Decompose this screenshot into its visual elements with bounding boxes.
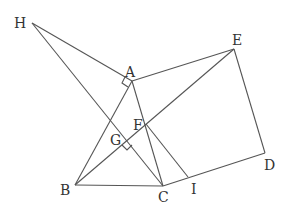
point-label-F: F bbox=[133, 117, 143, 133]
segment-HC bbox=[32, 23, 163, 186]
point-label-B: B bbox=[60, 182, 70, 198]
point-label-I: I bbox=[191, 181, 197, 197]
point-label-E: E bbox=[232, 32, 242, 48]
segment-BC bbox=[75, 185, 163, 186]
point-label-A: A bbox=[124, 64, 136, 80]
geometry-diagram: H A E F G B C I D bbox=[0, 0, 291, 214]
segment-ED bbox=[234, 49, 265, 153]
diagram-canvas: H A E F G B C I D bbox=[0, 0, 291, 214]
point-label-H: H bbox=[14, 15, 26, 31]
segment-AB bbox=[75, 81, 132, 185]
point-label-D: D bbox=[264, 157, 275, 173]
point-label-C: C bbox=[158, 189, 169, 205]
segment-BE bbox=[75, 49, 234, 185]
point-label-G: G bbox=[110, 132, 121, 148]
segment-AE bbox=[132, 49, 234, 81]
right-angle-mark-G bbox=[122, 145, 132, 150]
segment-HA bbox=[32, 23, 132, 81]
segment-DC bbox=[163, 153, 265, 186]
segment-AC bbox=[132, 81, 163, 186]
